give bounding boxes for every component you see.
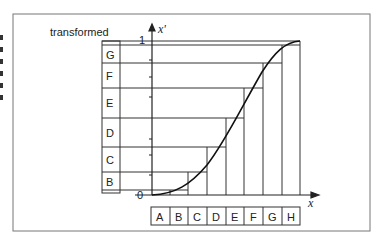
bin-label-C: C bbox=[193, 211, 201, 223]
y-axis-var: x' bbox=[157, 22, 166, 36]
bin-label-H: H bbox=[287, 211, 295, 223]
bin-label-E: E bbox=[106, 97, 113, 109]
origin-label: 0 bbox=[137, 189, 143, 201]
bin-label-B: B bbox=[175, 211, 182, 223]
y-axis-arrow-icon bbox=[149, 24, 155, 31]
y-tick-1: 1 bbox=[139, 34, 145, 46]
bin-label-D: D bbox=[106, 127, 114, 139]
bin-label-G: G bbox=[106, 49, 115, 61]
input-bin-boxes bbox=[151, 207, 300, 225]
output-bin-table bbox=[102, 41, 300, 193]
y-axis-title: transformed bbox=[50, 26, 109, 38]
bin-label-G: G bbox=[268, 211, 277, 223]
bin-label-F: F bbox=[106, 70, 113, 82]
bin-label-E: E bbox=[231, 211, 238, 223]
histogram-equalization-diagram: G F E D C B transformed x' 1 0 x bbox=[0, 0, 379, 242]
bin-label-C: C bbox=[106, 154, 114, 166]
figure-frame bbox=[13, 14, 370, 231]
bin-label-D: D bbox=[212, 211, 220, 223]
x-axis-var: x bbox=[307, 196, 314, 210]
bin-label-B: B bbox=[106, 176, 113, 188]
bin-label-F: F bbox=[250, 211, 257, 223]
bin-label-A: A bbox=[156, 211, 164, 223]
